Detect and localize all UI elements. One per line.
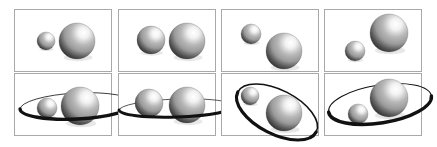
small-sphere (241, 24, 261, 45)
small-sphere (348, 104, 368, 125)
figure-panel-top-4 (324, 9, 422, 72)
large-sphere (59, 23, 95, 61)
large-sphere (61, 87, 99, 127)
small-sphere (37, 32, 55, 51)
figure-panel-top-2 (118, 9, 216, 72)
figure-panel-bottom-4 (324, 73, 422, 136)
large-sphere (169, 23, 205, 61)
figure-panel-bottom-1 (14, 73, 112, 136)
panel-row-bottom (0, 73, 437, 138)
figure-panel-top-1 (14, 9, 112, 72)
small-sphere (345, 41, 365, 62)
large-sphere (370, 79, 408, 119)
small-sphere (137, 26, 165, 56)
figure-panel-top-3 (221, 9, 319, 72)
small-sphere (241, 87, 259, 106)
large-sphere (370, 14, 408, 54)
large-sphere (169, 87, 205, 125)
sphere-orbit-figure (0, 0, 437, 147)
figure-panel-bottom-2 (118, 73, 216, 136)
large-sphere (266, 95, 302, 133)
large-sphere (266, 33, 302, 71)
panel-row-top (0, 9, 437, 74)
small-sphere (135, 89, 163, 119)
figure-panel-bottom-3 (221, 73, 319, 136)
